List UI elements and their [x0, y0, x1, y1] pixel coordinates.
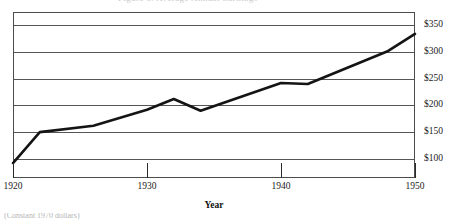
- x-axis-label-1950: 1950: [406, 181, 425, 192]
- x-axis-title: Year: [0, 200, 458, 210]
- y-axis-label-200: $200: [424, 99, 443, 109]
- series-line-chart: [13, 12, 415, 178]
- x-axis-label-1920: 1920: [4, 181, 23, 192]
- x-axis-label-1930: 1930: [138, 181, 157, 192]
- y-axis-label-100: $100: [424, 153, 443, 163]
- x-axis-tick-1920: [13, 163, 14, 178]
- cropped-title-text: Figure 3. Average Annual Earnings: [118, 0, 258, 3]
- y-axis-label-350: $350: [424, 19, 443, 29]
- series-line-average-annual-earnings: [13, 34, 415, 163]
- x-axis-tick-1930: [147, 163, 148, 178]
- x-axis-label-1940: 1940: [272, 181, 291, 192]
- y-axis-label-300: $300: [424, 46, 443, 56]
- footnote-text: (Constant 1970 dollars): [4, 213, 80, 220]
- y-axis-label-150: $150: [424, 126, 443, 136]
- footnote: (Constant 1970 dollars): [4, 213, 234, 222]
- x-axis-tick-1950: [415, 163, 416, 178]
- chart-figure: Figure 3. Average Annual Earnings $350$3…: [0, 0, 458, 222]
- cropped-title-strip: Figure 3. Average Annual Earnings: [0, 0, 458, 7]
- x-axis-tick-1940: [281, 163, 282, 178]
- y-axis-label-250: $250: [424, 73, 443, 83]
- x-axis-title-text: Year: [205, 200, 224, 210]
